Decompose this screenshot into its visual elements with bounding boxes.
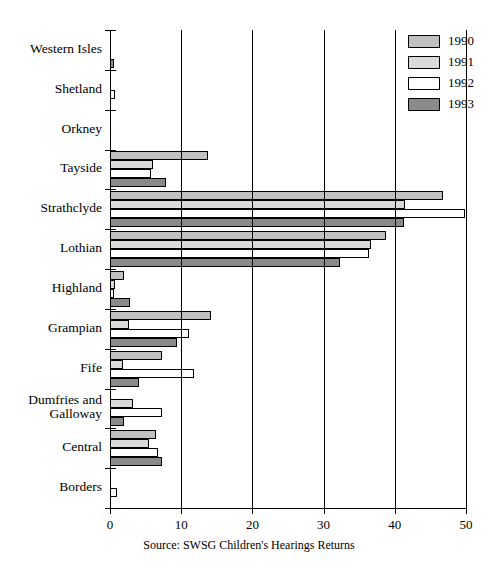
x-tick bbox=[324, 508, 325, 514]
y-tick bbox=[105, 189, 116, 190]
x-tick bbox=[252, 508, 253, 514]
bar-1993 bbox=[110, 378, 139, 387]
y-tick bbox=[105, 229, 116, 230]
bar-1991 bbox=[110, 240, 371, 249]
bar-1992 bbox=[110, 448, 158, 457]
bar-1991 bbox=[110, 360, 123, 369]
y-tick bbox=[105, 269, 116, 270]
y-tick bbox=[105, 30, 116, 31]
bar-1992 bbox=[110, 249, 369, 258]
y-tick bbox=[105, 389, 116, 390]
y-tick bbox=[105, 468, 116, 469]
bar-1990 bbox=[110, 191, 443, 200]
category-label: Fife bbox=[0, 361, 110, 375]
bar-1991 bbox=[110, 280, 115, 289]
category-label-line: Dumfries and bbox=[0, 393, 102, 407]
x-tick-label: 10 bbox=[161, 517, 201, 533]
bar-1990 bbox=[110, 351, 162, 360]
legend-swatch-1992 bbox=[408, 77, 440, 90]
category-label: Lothian bbox=[0, 241, 110, 255]
bar-1992 bbox=[110, 408, 162, 417]
bar-1993 bbox=[110, 338, 177, 347]
gridline bbox=[252, 30, 253, 508]
gridline bbox=[181, 30, 182, 508]
source-note: Source: SWSG Children's Hearings Returns bbox=[0, 538, 498, 553]
category-label: Central bbox=[0, 440, 110, 454]
legend-item-1990: 1990 bbox=[408, 32, 494, 50]
y-tick bbox=[105, 428, 116, 429]
bar-1992 bbox=[110, 289, 114, 298]
legend-item-1992: 1992 bbox=[408, 74, 494, 92]
category-label: Shetland bbox=[0, 82, 110, 96]
legend-label: 1990 bbox=[448, 33, 474, 49]
bar-1992 bbox=[110, 488, 117, 497]
legend: 1990199119921993 bbox=[408, 28, 494, 120]
bar-1993 bbox=[110, 298, 130, 307]
legend-swatch-1993 bbox=[408, 98, 440, 111]
bar-1992 bbox=[110, 209, 465, 218]
bar-1992 bbox=[110, 329, 189, 338]
bar-1992 bbox=[110, 90, 115, 99]
y-tick bbox=[105, 150, 116, 151]
x-tick-label: 40 bbox=[375, 517, 415, 533]
category-label: Dumfries andGalloway bbox=[0, 393, 110, 421]
legend-label: 1991 bbox=[448, 54, 474, 70]
legend-label: 1993 bbox=[448, 96, 474, 112]
x-tick-label: 30 bbox=[304, 517, 344, 533]
category-label: Grampian bbox=[0, 321, 110, 335]
y-tick bbox=[105, 70, 116, 71]
category-label: Tayside bbox=[0, 161, 110, 175]
category-label: Highland bbox=[0, 281, 110, 295]
bar-1993 bbox=[110, 457, 162, 466]
x-tick bbox=[466, 508, 467, 514]
bar-1991 bbox=[110, 320, 129, 329]
x-tick-label: 50 bbox=[446, 517, 486, 533]
bar-1990 bbox=[110, 311, 211, 320]
x-tick bbox=[181, 508, 182, 514]
y-tick bbox=[105, 309, 116, 310]
bar-1992 bbox=[110, 169, 151, 178]
x-tick-label: 20 bbox=[232, 517, 272, 533]
gridline bbox=[395, 30, 396, 508]
bar-1991 bbox=[110, 439, 149, 448]
bar-1993 bbox=[110, 258, 340, 267]
x-axis-line bbox=[110, 508, 466, 509]
x-tick bbox=[110, 508, 111, 514]
y-tick bbox=[105, 349, 116, 350]
x-tick bbox=[395, 508, 396, 514]
legend-item-1991: 1991 bbox=[408, 53, 494, 71]
legend-item-1993: 1993 bbox=[408, 95, 494, 113]
bar-1993 bbox=[110, 218, 404, 227]
bar-1993 bbox=[110, 178, 166, 187]
category-label: Orkney bbox=[0, 122, 110, 136]
bar-1991 bbox=[110, 200, 405, 209]
bar-1990 bbox=[110, 231, 386, 240]
category-label: Strathclyde bbox=[0, 201, 110, 215]
category-label-line: Galloway bbox=[0, 407, 102, 421]
bar-1990 bbox=[110, 430, 156, 439]
x-tick-label: 0 bbox=[90, 517, 130, 533]
y-tick bbox=[105, 110, 116, 111]
bar-1991 bbox=[110, 160, 153, 169]
bar-chart: 01020304050 Western IslesShetlandOrkneyT… bbox=[0, 0, 498, 569]
bar-1990 bbox=[110, 151, 208, 160]
bar-1991 bbox=[110, 399, 133, 408]
bar-1993 bbox=[110, 59, 114, 68]
bar-1990 bbox=[110, 271, 124, 280]
category-label: Borders bbox=[0, 480, 110, 494]
legend-swatch-1990 bbox=[408, 35, 440, 48]
legend-label: 1992 bbox=[448, 75, 474, 91]
gridline bbox=[324, 30, 325, 508]
bar-1993 bbox=[110, 417, 124, 426]
legend-swatch-1991 bbox=[408, 56, 440, 69]
category-label: Western Isles bbox=[0, 42, 110, 56]
